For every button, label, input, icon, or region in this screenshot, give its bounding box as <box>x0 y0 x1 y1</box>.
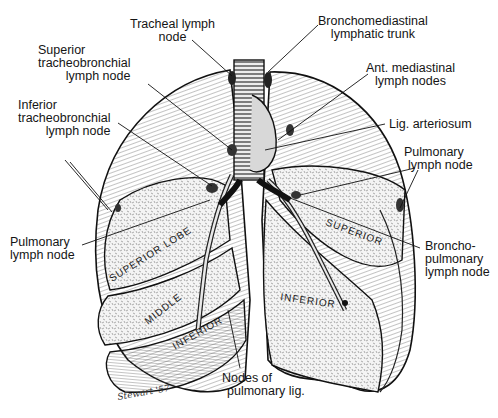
label-lig-arteriosum: Lig. arteriosum <box>389 118 472 131</box>
label-pulmonary-lymph-node-left: Pulmonary lymph node <box>404 146 473 172</box>
label-superior-tracheobronchial: Superior tracheobronchial lymph node <box>38 44 130 83</box>
label-bronchopulmonary-lymph-node: Broncho- pulmonary lymph node <box>425 240 490 279</box>
label-bronchomediastinal-trunk: Bronchomediastinal lymphatic trunk <box>318 15 428 41</box>
label-nodes-of-pulmonary-lig: Nodes of pulmonary lig. <box>222 372 305 398</box>
label-tracheal-lymph-node: Tracheal lymph node <box>130 18 215 44</box>
lung-lymph-diagram: SUPERIOR LOBE MIDDLE INFERIOR SUPERIOR I… <box>0 0 498 418</box>
label-inferior-tracheobronchial: Inferior tracheobronchial lymph node <box>18 99 110 138</box>
label-pulmonary-lymph-node-right: Pulmonary lymph node <box>10 236 75 262</box>
label-ant-mediastinal: Ant. mediastinal lymph nodes <box>366 62 455 88</box>
